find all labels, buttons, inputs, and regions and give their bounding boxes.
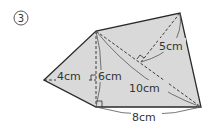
label-6cm: 6cm: [98, 70, 122, 83]
problem-number: 3: [18, 13, 24, 24]
label-4cm: 4cm: [57, 70, 81, 83]
composite-shape: [44, 13, 201, 107]
label-10cm: 10cm: [129, 82, 160, 95]
label-8cm: 8cm: [132, 111, 156, 124]
figure-diagram: 3 4cm 6cm 5cm 10cm 8cm: [0, 0, 213, 140]
label-5cm: 5cm: [159, 40, 183, 53]
